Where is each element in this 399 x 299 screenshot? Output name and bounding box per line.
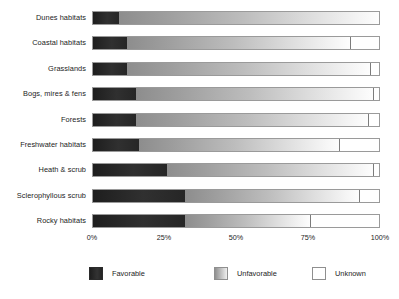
segment-unfavorable [127,63,370,75]
segment-unfavorable [119,12,379,24]
category-label: Bogs, mires & fens [0,87,86,101]
segment-favorable [93,37,127,49]
legend-label: Unfavorable [237,267,277,280]
stacked-bar [92,214,380,228]
category-label: Heath & scrub [0,163,86,177]
category-label: Dunes habitats [0,11,86,25]
segment-favorable [93,63,127,75]
segment-favorable [93,114,136,126]
segment-unfavorable [136,114,368,126]
chart-row: Forests [0,113,399,127]
segment-favorable [93,164,167,176]
chart-row: Freshwater habitats [0,138,399,152]
segment-unknown [359,190,379,202]
legend-label: Unknown [335,267,366,280]
category-label: Freshwater habitats [0,138,86,152]
segment-unfavorable [167,164,373,176]
segment-unfavorable [139,139,339,151]
x-axis-tick-label: 75% [301,232,315,244]
legend-label: Favorable [112,267,145,280]
segment-unknown [370,63,379,75]
stacked-bar [92,189,380,203]
x-axis-tick-label: 0% [87,232,97,244]
stacked-bar [92,163,380,177]
chart-row: Bogs, mires & fens [0,87,399,101]
segment-unknown [368,114,379,126]
legend-swatch-unknown-icon [312,267,326,280]
category-label: Sclerophyllous scrub [0,189,86,203]
x-axis-tick-label: 25% [157,232,171,244]
segment-unknown [339,139,379,151]
segment-unknown [373,88,379,100]
stacked-bar [92,11,380,25]
stacked-bar [92,113,380,127]
category-label: Coastal habitats [0,36,86,50]
segment-unfavorable [185,190,359,202]
chart-legend: FavorableUnfavorableUnknown [0,266,399,286]
category-label: Grasslands [0,62,86,76]
chart-row: Rocky habitats [0,214,399,228]
x-axis-tick-label: 100% [371,232,389,244]
segment-favorable [93,190,185,202]
segment-unknown [373,164,379,176]
segment-favorable [93,12,119,24]
legend-swatch-favorable-icon [89,267,103,280]
segment-favorable [93,215,185,227]
stacked-bar [92,138,380,152]
x-axis: 0%25%50%75%100% [0,232,399,248]
stacked-bar [92,36,380,50]
legend-item-unknown[interactable]: Unknown [312,266,366,280]
segment-unknown [350,37,379,49]
segment-favorable [93,88,136,100]
stacked-bar [92,87,380,101]
stacked-bar [92,62,380,76]
legend-item-favorable[interactable]: Favorable [89,266,145,280]
legend-item-unfavorable[interactable]: Unfavorable [214,266,277,280]
chart-row: Coastal habitats [0,36,399,50]
legend-swatch-unfavorable-icon [214,267,228,280]
category-label: Forests [0,113,86,127]
chart-row: Sclerophyllous scrub [0,189,399,203]
category-label: Rocky habitats [0,214,86,228]
segment-favorable [93,139,139,151]
segment-unfavorable [136,88,373,100]
segment-unfavorable [127,37,350,49]
x-axis-tick-label: 50% [229,232,243,244]
plot-area: Dunes habitatsCoastal habitatsGrasslands… [0,0,399,232]
chart-row: Heath & scrub [0,163,399,177]
chart-row: Grasslands [0,62,399,76]
segment-unfavorable [185,215,311,227]
stacked-bar-chart: Dunes habitatsCoastal habitatsGrasslands… [0,0,399,299]
segment-unknown [310,215,379,227]
chart-row: Dunes habitats [0,11,399,25]
